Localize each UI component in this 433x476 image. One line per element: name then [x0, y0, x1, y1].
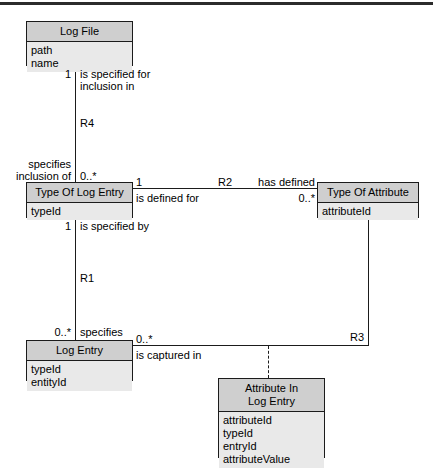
label-r3-source-role: is captured in: [136, 349, 201, 361]
entity-attribute-in-log-entry-attributes: attributeId typeId entryId attributeValu…: [219, 412, 324, 468]
attribute-item: typeId: [31, 205, 132, 218]
entity-log-file[interactable]: Log File path name: [26, 21, 133, 66]
label-r2-target-role: has defined: [242, 176, 315, 188]
entity-type-of-attribute-title: Type Of Attribute: [318, 183, 418, 203]
entity-type-of-log-entry[interactable]: Type Of Log Entry typeId: [26, 182, 133, 218]
label-r2-name: R2: [218, 176, 232, 188]
attribute-item: entryId: [223, 440, 324, 453]
attribute-item: path: [31, 44, 132, 57]
entity-type-of-attribute[interactable]: Type Of Attribute attributeId: [317, 182, 419, 218]
entity-attribute-in-log-entry-title: Attribute In Log Entry: [219, 379, 324, 412]
label-r2-source-multiplicity: 1: [136, 176, 142, 188]
entity-type-of-attribute-attributes: attributeId: [318, 203, 418, 220]
top-divider-rule: [0, 2, 433, 5]
attribute-item: attributeValue: [223, 453, 324, 466]
entity-type-of-log-entry-attributes: typeId: [27, 203, 132, 220]
label-r1-name: R1: [80, 272, 94, 284]
label-r1-source-multiplicity: 1: [38, 220, 71, 232]
attribute-item: entityId: [31, 376, 132, 389]
connector-r3-vertical-line: [368, 217, 369, 346]
label-r1-target-multiplicity: 0..*: [30, 326, 71, 338]
attribute-item: attributeId: [322, 205, 418, 218]
entity-log-entry-title: Log Entry: [27, 341, 132, 361]
label-r3-name: R3: [330, 331, 364, 343]
attribute-item: typeId: [223, 427, 324, 440]
connector-r3-horizontal-line: [133, 345, 369, 346]
label-r3-source-multiplicity: 0..*: [136, 333, 153, 345]
label-r2-target-multiplicity: 0..*: [276, 192, 315, 204]
entity-log-entry-attributes: typeId entityId: [27, 361, 132, 391]
entity-attribute-in-log-entry[interactable]: Attribute In Log Entry attributeId typeI…: [218, 378, 325, 458]
diagram-canvas: Log File path name Type Of Log Entry typ…: [0, 0, 433, 476]
label-r4-target-role: specifies inclusion of: [0, 158, 71, 182]
entity-log-entry[interactable]: Log Entry typeId entityId: [26, 340, 133, 381]
connector-r4-line: [75, 65, 76, 182]
connector-association-class-dashed-line: [268, 346, 269, 378]
attribute-item: attributeId: [223, 414, 324, 427]
entity-log-file-title: Log File: [27, 22, 132, 42]
label-r4-source-multiplicity: 1: [38, 68, 71, 80]
connector-r1-line: [75, 217, 76, 340]
attribute-item: typeId: [31, 363, 132, 376]
label-r1-target-role: specifies: [80, 326, 123, 338]
connector-r2-line: [133, 188, 317, 189]
label-r4-name: R4: [80, 117, 94, 129]
label-r1-source-role: is specified by: [80, 220, 149, 232]
label-r4-target-multiplicity: 0..*: [80, 170, 97, 182]
label-r2-source-role: is defined for: [136, 192, 199, 204]
label-r4-source-role: is specified for inclusion in: [80, 68, 150, 92]
entity-type-of-log-entry-title: Type Of Log Entry: [27, 183, 132, 203]
